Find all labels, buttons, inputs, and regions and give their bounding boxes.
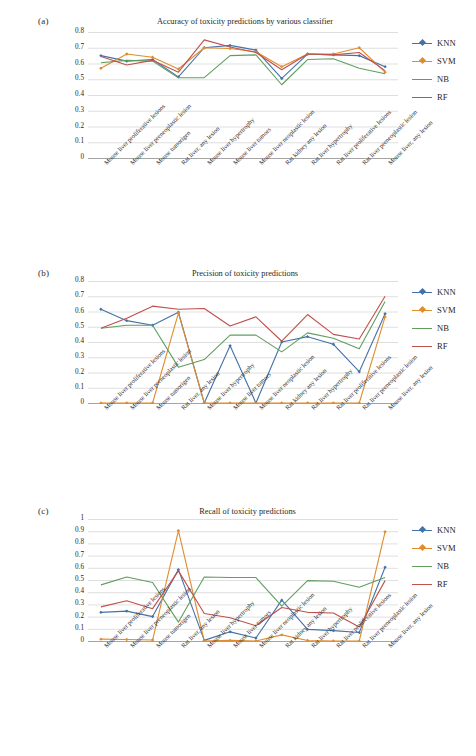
legend-swatch-svm: [412, 543, 432, 553]
y-axis-tick-label: 0.1: [60, 137, 84, 145]
legend-label-rf: RF: [437, 92, 448, 102]
y-axis-tick-label: 0.2: [60, 368, 84, 376]
data-point-knn: [306, 335, 309, 338]
series-line-knn: [101, 309, 385, 403]
y-axis-tick-label: 0.4: [60, 587, 84, 595]
legend-swatch-rf: [412, 92, 432, 102]
legend-label-svm: SVM: [437, 543, 456, 553]
y-axis-tick-label: 0.7: [60, 551, 84, 559]
legend-swatch-svm: [412, 305, 432, 315]
chart-panel-accuracy: (a) Accuracy of toxicity predictions by …: [0, 0, 476, 252]
legend-label-knn: KNN: [437, 38, 456, 48]
series-line-rf: [101, 296, 385, 341]
y-axis-tick-label: 0.5: [60, 575, 84, 583]
y-axis-tick-label: 0.7: [60, 291, 84, 299]
legend-swatch-svm: [412, 56, 432, 66]
legend-item-knn[interactable]: KNN: [412, 283, 456, 301]
chart-title-recall: Recall of toxicity predictions: [130, 507, 365, 516]
data-point-knn: [228, 630, 231, 633]
legend-swatch-nb: [412, 323, 432, 333]
legend-label-nb: NB: [437, 561, 449, 571]
data-point-knn: [125, 319, 128, 322]
data-point-knn: [99, 611, 102, 614]
legend-item-rf[interactable]: RF: [412, 575, 456, 593]
plot-area-recall: 00.10.20.30.40.50.60.70.80.91: [88, 519, 398, 642]
legend-item-rf[interactable]: RF: [412, 337, 456, 355]
legend-item-svm[interactable]: SVM: [412, 539, 456, 557]
legend-swatch-knn: [412, 287, 432, 297]
y-axis-tick-label: 0.5: [60, 322, 84, 330]
y-axis-tick-label: 0.6: [60, 307, 84, 315]
legend-swatch-nb: [412, 561, 432, 571]
data-point-knn: [228, 344, 231, 347]
y-axis-tick-label: 0.6: [60, 563, 84, 571]
y-axis-tick-label: 0: [60, 636, 84, 644]
chart-panel-recall: (c) Recall of toxicity predictions 00.10…: [0, 494, 476, 756]
legend-item-rf[interactable]: RF: [412, 88, 456, 106]
legend-recall: KNNSVMNBRF: [412, 521, 456, 593]
y-axis-tick-label: 0.1: [60, 383, 84, 391]
legend-precision: KNNSVMNBRF: [412, 283, 456, 355]
data-point-svm: [383, 530, 386, 533]
data-point-svm: [151, 56, 154, 59]
data-point-svm: [125, 638, 128, 641]
legend-label-svm: SVM: [437, 305, 456, 315]
series-line-nb: [101, 302, 385, 368]
legend-swatch-nb: [412, 74, 432, 84]
plot-canvas: [88, 281, 398, 404]
data-point-knn: [358, 54, 361, 57]
y-axis-tick-label: 0: [60, 398, 84, 406]
chart-panel-precision: (b) Precision of toxicity predictions 00…: [0, 252, 476, 494]
legend-item-nb[interactable]: NB: [412, 70, 456, 88]
chart-title-accuracy: Accuracy of toxicity predictions by vari…: [95, 17, 395, 26]
legend-item-knn[interactable]: KNN: [412, 521, 456, 539]
y-axis-tick-label: 0.6: [60, 59, 84, 67]
y-axis-tick-label: 0.3: [60, 352, 84, 360]
data-point-svm: [280, 633, 283, 636]
y-axis-tick-label: 0.9: [60, 526, 84, 534]
data-point-knn: [383, 65, 386, 68]
plot-area-accuracy: 00.10.20.30.40.50.60.70.8: [88, 32, 398, 159]
legend-label-svm: SVM: [437, 56, 456, 66]
panel-tag-b: (b): [38, 268, 49, 278]
y-axis-tick-label: 0: [60, 153, 84, 161]
data-point-knn: [99, 308, 102, 311]
y-axis-tick-label: 0.7: [60, 43, 84, 51]
y-axis-tick-label: 0.3: [60, 106, 84, 114]
legend-item-knn[interactable]: KNN: [412, 34, 456, 52]
plot-canvas: [88, 32, 398, 159]
chart-title-precision: Precision of toxicity predictions: [125, 269, 365, 278]
legend-item-svm[interactable]: SVM: [412, 301, 456, 319]
data-point-svm: [99, 637, 102, 640]
y-axis-tick-label: 0.2: [60, 122, 84, 130]
data-point-knn: [383, 312, 386, 315]
legend-label-nb: NB: [437, 74, 449, 84]
data-point-knn: [125, 609, 128, 612]
plot-area-precision: 00.10.20.30.40.50.60.70.8: [88, 281, 398, 404]
y-axis-tick-label: 0.4: [60, 90, 84, 98]
plot-canvas: [88, 519, 398, 642]
panel-tag-a: (a): [38, 16, 49, 26]
legend-item-svm[interactable]: SVM: [412, 52, 456, 70]
legend-swatch-knn: [412, 525, 432, 535]
legend-label-knn: KNN: [437, 525, 456, 535]
y-axis-tick-label: 1: [60, 514, 84, 522]
legend-item-nb[interactable]: NB: [412, 319, 456, 337]
y-axis-tick-label: 0.8: [60, 27, 84, 35]
y-axis-tick-label: 0.2: [60, 612, 84, 620]
legend-swatch-knn: [412, 38, 432, 48]
legend-label-nb: NB: [437, 323, 449, 333]
y-axis-tick-label: 0.5: [60, 74, 84, 82]
series-line-svm: [101, 531, 385, 641]
panel-tag-c: (c): [38, 506, 49, 516]
y-axis-tick-label: 0.3: [60, 599, 84, 607]
series-line-nb: [101, 55, 385, 85]
y-axis-tick-label: 0.4: [60, 337, 84, 345]
legend-label-rf: RF: [437, 579, 448, 589]
legend-item-nb[interactable]: NB: [412, 557, 456, 575]
legend-swatch-rf: [412, 579, 432, 589]
y-axis-tick-label: 0.8: [60, 276, 84, 284]
y-axis-tick-label: 0.8: [60, 538, 84, 546]
legend-accuracy: KNNSVMNBRF: [412, 34, 456, 106]
legend-label-knn: KNN: [437, 287, 456, 297]
